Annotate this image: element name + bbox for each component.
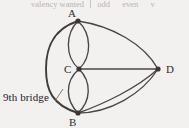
- node-A: [75, 18, 80, 23]
- edge-C-B-left: [68, 69, 79, 113]
- edge-A-C-right: [78, 21, 89, 69]
- edge-A-C-left: [68, 21, 79, 69]
- figure-canvas: valency wanted odd even v A C D: [0, 0, 189, 128]
- node-label-B: B: [69, 116, 76, 128]
- edge-C-B-right: [78, 69, 88, 113]
- multigraph-diagram: A C D B: [0, 0, 189, 128]
- bridge-leader-line: [55, 89, 63, 101]
- node-label-C: C: [64, 63, 71, 75]
- edge-B-D-lower: [78, 69, 158, 113]
- ninth-bridge-annotation: 9th bridge: [3, 91, 49, 103]
- node-label-A: A: [68, 7, 76, 19]
- edge-B-D-upper: [78, 69, 158, 113]
- node-C: [76, 66, 81, 71]
- node-B: [75, 110, 80, 115]
- node-label-D: D: [166, 63, 174, 75]
- node-D: [155, 66, 160, 71]
- edge-A-D: [78, 21, 158, 69]
- edge-A-B-outer-9th-bridge: [46, 21, 78, 113]
